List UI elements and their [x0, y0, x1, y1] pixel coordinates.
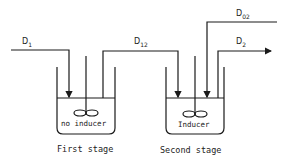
d2-outflow-line [218, 51, 271, 98]
first-stage-tank-label: no inducer [61, 119, 106, 128]
two-stage-chemostat-diagram [0, 0, 284, 164]
second-stage-label: Second stage [160, 145, 221, 155]
d12-label: D12 [134, 37, 148, 48]
d1-label: D1 [22, 37, 32, 48]
first-stage-label: First stage [57, 144, 113, 154]
second-stage-impeller-icon [183, 111, 195, 117]
d2-label: D2 [236, 37, 246, 48]
first-stage-impeller-icon [74, 110, 86, 116]
d02-label: D02 [236, 9, 250, 20]
d1-feed-line [11, 50, 69, 97]
second-stage-tank-label: Inducer [178, 120, 210, 129]
d12-transfer-line [103, 51, 178, 98]
